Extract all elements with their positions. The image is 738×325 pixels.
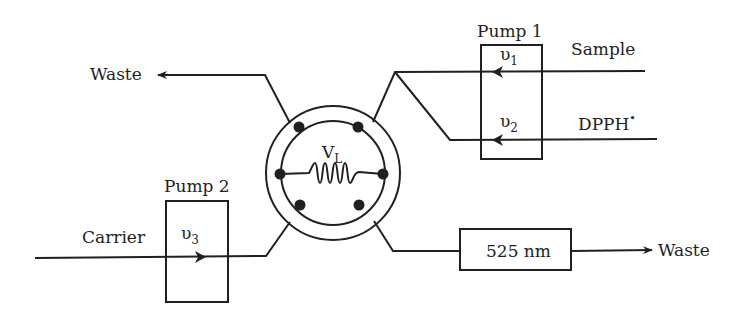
dpph-label: DPPH• [578, 116, 636, 133]
dpph-text: DPPH [578, 114, 629, 134]
waste-top-line [158, 75, 290, 123]
valve-port-dot [354, 200, 365, 211]
carrier-label: Carrier [82, 229, 145, 246]
v3-label: υ3 [181, 225, 199, 242]
carrier-line [35, 222, 290, 258]
waste-bottom-label: Waste [658, 242, 710, 259]
valve-port-dot [275, 169, 286, 180]
v2-label: υ2 [500, 113, 518, 130]
pump1-label: Pump 1 [477, 23, 543, 40]
pump2-box [166, 201, 228, 302]
v2-subscript: 2 [510, 121, 518, 135]
valve-port-dot [294, 122, 305, 133]
v1-subscript: 1 [510, 54, 518, 68]
valve-volume-label: VL [322, 144, 342, 161]
detector-waste-line [571, 250, 652, 251]
v1-label: υ1 [500, 46, 518, 63]
to-detector-line [374, 221, 460, 251]
v3-subscript: 3 [191, 233, 199, 247]
pump2-label: Pump 2 [164, 178, 230, 195]
v1-symbol: υ [500, 44, 510, 64]
waste-top-label: Waste [90, 66, 142, 83]
v3-symbol: υ [181, 223, 191, 243]
detector-label: 525 nm [486, 243, 551, 260]
valve-port-dot [378, 169, 389, 180]
valve-port-dot [353, 122, 364, 133]
v2-symbol: υ [500, 111, 510, 131]
sample-label: Sample [571, 41, 635, 58]
valve-port-dot [295, 200, 306, 211]
sample-loop-coil [280, 163, 383, 183]
fia-diagram: Waste Pump 1 Sample υ1 υ2 DPPH• VL Pump … [0, 0, 738, 325]
valve-volume-symbol: V [322, 142, 334, 162]
dpph-radical-dot: • [629, 112, 636, 125]
valve-volume-subscript: L [334, 152, 342, 166]
